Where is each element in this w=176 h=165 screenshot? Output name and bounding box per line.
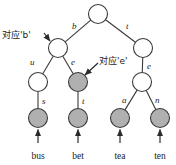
node-bet <box>69 109 88 128</box>
edge-root-t <box>106 20 136 43</box>
leaf-arrows-layer <box>38 130 160 144</box>
edge-root-t-label: t <box>126 22 129 31</box>
leaf-label-tea: tea <box>114 152 125 162</box>
edge-e-a-label: a <box>122 96 127 105</box>
edge-b-e-label: e <box>71 58 75 67</box>
edge-b-u-label: u <box>30 58 35 67</box>
leaf-label-bus: bus <box>31 152 44 162</box>
edge-root-b <box>65 20 91 42</box>
node-te <box>133 73 152 92</box>
edge-e-n-label: n <box>155 96 160 105</box>
node-b <box>49 39 68 58</box>
edge-b-u <box>43 56 53 74</box>
tree-diagram-svg <box>0 0 176 165</box>
tree-diagram-figure: btueestan busbetteaten 对应'b'对应'e' <box>0 0 176 165</box>
node-ten <box>151 109 170 128</box>
edge-u-s-label: s <box>42 97 46 106</box>
annotation-corresponds-b: 对应'b' <box>2 31 31 40</box>
edge-t-e-label: e <box>147 62 151 71</box>
annotation-corresponds-e: 对应'e' <box>99 57 128 66</box>
node-root <box>89 5 108 24</box>
node-tea <box>111 109 130 128</box>
edge-root-b-label: b <box>72 22 77 31</box>
annotation-corresponds-e-arrow <box>85 63 98 75</box>
node-bus <box>29 109 48 128</box>
leaf-label-ten: ten <box>154 152 166 162</box>
annotation-corresponds-b-arrow <box>44 33 50 41</box>
leaf-label-bet: bet <box>72 152 84 162</box>
edge-e-t-label: t <box>82 97 85 106</box>
node-t <box>134 39 153 58</box>
node-be <box>69 73 88 92</box>
node-bu <box>29 73 48 92</box>
